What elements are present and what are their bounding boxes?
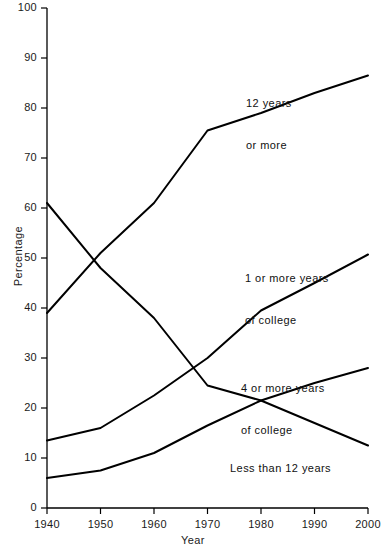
- y-tick-label: 40: [0, 301, 37, 313]
- y-tick-label: 0: [0, 501, 37, 513]
- line-chart: 0102030405060708090100 19401950196019701…: [0, 0, 386, 557]
- x-tick-label: 1940: [23, 518, 71, 530]
- series-label-line2: of college: [245, 313, 329, 327]
- x-tick-label: 1950: [77, 518, 125, 530]
- x-tick-marks: [47, 508, 368, 514]
- series-label-line1: 1 or more years: [245, 271, 329, 285]
- x-axis-title: Year: [0, 534, 386, 546]
- y-tick-label: 10: [0, 451, 37, 463]
- series-label-1-or-more-years-of-college: 1 or more years of college: [245, 243, 329, 355]
- x-tick-label: 1990: [291, 518, 339, 530]
- y-tick-label: 20: [0, 401, 37, 413]
- series-label-line1: Less than 12 years: [230, 461, 331, 475]
- x-tick-label: 1980: [237, 518, 285, 530]
- series-label-line1: 4 or more years: [241, 381, 325, 395]
- y-axis-title: Percentage: [12, 216, 24, 296]
- y-tick-marks: [41, 8, 47, 508]
- y-tick-label: 100: [0, 1, 37, 13]
- series-label-less-than-12-years: Less than 12 years: [230, 433, 331, 503]
- y-tick-label: 60: [0, 201, 37, 213]
- series-label-line2: or more: [246, 138, 292, 152]
- y-tick-label: 30: [0, 351, 37, 363]
- y-tick-label: 70: [0, 151, 37, 163]
- y-tick-label: 90: [0, 51, 37, 63]
- x-tick-label: 2000: [344, 518, 386, 530]
- series-label-line1: 12 years: [246, 96, 292, 110]
- series-label-12-years-or-more: 12 years or more: [246, 68, 292, 180]
- x-tick-label: 1960: [130, 518, 178, 530]
- x-tick-label: 1970: [184, 518, 232, 530]
- y-tick-label: 80: [0, 101, 37, 113]
